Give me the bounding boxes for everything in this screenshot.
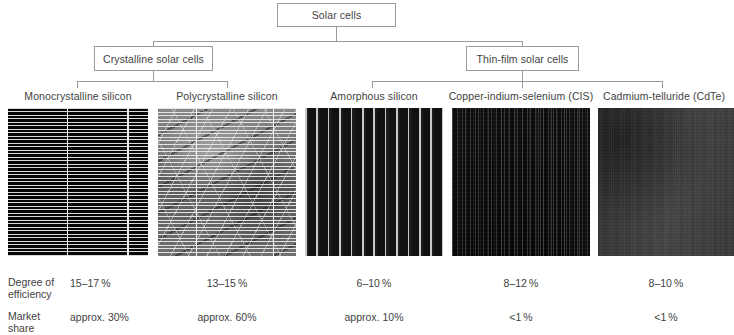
market-share-copper-indium-selenium-cis: <1 % [452, 311, 590, 323]
row-label-market-share-line1: Market [8, 311, 68, 323]
node-thin-film-solar-cells-label: Thin-film solar cells [477, 53, 569, 65]
row-label-degree-of-efficiency-line1: Degree of [8, 277, 68, 289]
connector-cdte-drop [662, 81, 663, 88]
connector-amorphous-drop [372, 81, 373, 88]
market-share-amorphous-silicon: approx. 10% [305, 311, 443, 323]
connector-thinfilm-stem [522, 71, 523, 81]
connector-crystalline-rail [77, 81, 228, 82]
connector-root-stem [336, 27, 337, 41]
efficiency-polycrystalline-silicon: 13–15 % [158, 277, 296, 289]
connector-crystalline-stem [153, 71, 154, 81]
efficiency-monocrystalline-silicon: 15–17 % [70, 277, 150, 289]
node-solar-cells: Solar cells [277, 3, 396, 27]
connector-thinfilm-rail [372, 81, 663, 82]
cell-photo-amorphous-silicon [305, 108, 443, 256]
node-thin-film-solar-cells: Thin-film solar cells [466, 46, 579, 71]
cell-photo-cadmium-telluride-cdte [598, 108, 734, 256]
connector-crystalline-drop [153, 41, 154, 47]
connector-thinfilm-drop [522, 41, 523, 47]
market-share-polycrystalline-silicon: approx. 60% [158, 311, 296, 323]
market-share-monocrystalline-silicon: approx. 30% [70, 311, 160, 323]
cell-photo-monocrystalline-silicon [8, 108, 148, 256]
connector-mono-drop [77, 81, 78, 88]
connector-cis-drop [522, 81, 523, 88]
row-label-market-share: Market share [8, 311, 68, 334]
efficiency-cadmium-telluride-cdte: 8–10 % [598, 277, 734, 289]
efficiency-copper-indium-selenium-cis: 8–12 % [452, 277, 590, 289]
row-label-degree-of-efficiency-line2: efficiency [8, 289, 68, 301]
efficiency-amorphous-silicon: 6–10 % [305, 277, 443, 289]
solar-cell-taxonomy-diagram: Solar cells Crystalline solar cells Thin… [0, 0, 734, 335]
node-solar-cells-label: Solar cells [312, 9, 362, 21]
connector-poly-drop [227, 81, 228, 88]
cell-photo-copper-indium-selenium-cis [452, 108, 590, 256]
market-share-cadmium-telluride-cdte: <1 % [598, 311, 734, 323]
cell-label-polycrystalline-silicon: Polycrystalline silicon [158, 90, 296, 103]
node-crystalline-solar-cells-label: Crystalline solar cells [103, 53, 204, 65]
node-crystalline-solar-cells: Crystalline solar cells [94, 46, 213, 71]
cell-label-copper-indium-selenium-cis: Copper-indium-selenium (CIS) [448, 90, 594, 103]
connector-level2-rail [153, 41, 523, 42]
cell-label-monocrystalline-silicon: Monocrystalline silicon [8, 90, 148, 103]
row-label-market-share-line2: share [8, 323, 68, 335]
cell-photo-polycrystalline-silicon [158, 108, 296, 256]
row-label-degree-of-efficiency: Degree of efficiency [8, 277, 68, 300]
cell-label-cadmium-telluride-cdte: Cadmium-telluride (CdTe) [594, 90, 734, 103]
cell-label-amorphous-silicon: Amorphous silicon [305, 90, 443, 103]
